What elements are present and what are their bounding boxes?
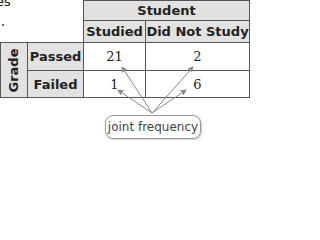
joint-frequency-callout: joint frequency <box>105 115 201 139</box>
